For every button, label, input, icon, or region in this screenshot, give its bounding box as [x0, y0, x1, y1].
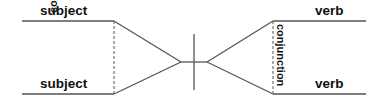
subject-conjunction-label: conjunction [47, 0, 59, 13]
verb-fork-top [207, 21, 273, 62]
compound-verb: conjunction verb verb [207, 3, 366, 94]
sentence-diagram: subject subject conjunction conjunction … [0, 0, 386, 101]
subject-fork-bottom [114, 62, 181, 94]
main-baseline [181, 34, 207, 90]
subject-fork-top [114, 21, 181, 62]
verb-conjunction-label: conjunction [275, 24, 287, 87]
verb-fork-bottom [207, 62, 273, 94]
verb-word-bottom: verb [315, 76, 344, 91]
subject-word-bottom: subject [40, 76, 88, 91]
compound-subject: subject subject conjunction [22, 0, 181, 94]
verb-word-top: verb [315, 3, 344, 18]
